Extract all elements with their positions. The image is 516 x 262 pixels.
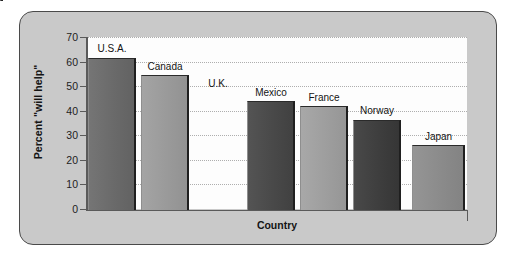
bar-label-uk: U.K. <box>194 79 242 89</box>
bar-label-canada: Canada <box>141 62 189 72</box>
bar-uk[interactable] <box>0 0 3 1</box>
bar-japan[interactable] <box>412 145 465 210</box>
bar-norway[interactable] <box>353 120 401 211</box>
bar-label-usa: U.S.A. <box>88 44 136 54</box>
bar-france[interactable] <box>300 106 348 210</box>
bar-label-japan: Japan <box>412 132 465 142</box>
bar-chart-figure: 70 60 50 40 30 20 10 0 Percent "will hel… <box>0 0 516 262</box>
bar-mexico[interactable] <box>247 101 295 210</box>
bar-series: U.S.A. Canada U.K. Mexico France Norway … <box>0 0 516 262</box>
bar-label-france: France <box>300 93 348 103</box>
bar-label-norway: Norway <box>353 106 401 116</box>
bar-usa[interactable] <box>88 58 136 211</box>
bar-label-mexico: Mexico <box>247 88 295 98</box>
bar-canada[interactable] <box>141 75 189 210</box>
